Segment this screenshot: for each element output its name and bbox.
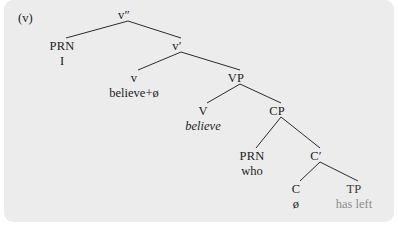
node-little-v-terminal: believe+ø: [109, 86, 158, 100]
node-v-bar-category: v′: [172, 39, 181, 53]
branch-vp-to-cp: [240, 84, 281, 103]
branch-cp-to-cbar: [281, 117, 320, 148]
node-big-v-terminal: believe: [185, 119, 220, 133]
node-cp-category: CP: [269, 104, 285, 118]
branch-cbar-to-tp: [320, 162, 358, 181]
branch-vbar-to-vp: [181, 52, 240, 70]
tree-diagram-canvas: (v) v″ PRN I v′ v believe+ø VP V believe…: [4, 0, 394, 222]
node-cp: CP: [269, 104, 285, 118]
branch-root-to-vbar: [128, 21, 181, 38]
node-c-bar-category: C′: [310, 149, 321, 163]
node-c-bar: C′: [310, 149, 321, 163]
node-prn-subject-category: PRN: [50, 39, 75, 53]
branch-vbar-to-little_v: [138, 52, 181, 70]
node-prn-who: PRN who: [240, 149, 265, 178]
node-prn-subject: PRN I: [50, 39, 75, 68]
node-c-head-category: C: [292, 182, 301, 196]
branch-root-to-prn_subject: [66, 21, 128, 38]
node-tp: TP has left: [336, 182, 372, 211]
node-root: v″: [118, 8, 130, 22]
node-c-head: C ø: [292, 182, 301, 211]
node-tp-terminal: has left: [336, 197, 372, 211]
node-vp-category: VP: [228, 71, 244, 85]
node-little-v-category: v: [109, 71, 158, 85]
node-v-bar: v′: [172, 39, 181, 53]
node-root-category: v″: [118, 8, 130, 22]
node-prn-subject-terminal: I: [50, 54, 75, 68]
node-big-v-category: V: [185, 104, 220, 118]
branch-cbar-to-c_head: [300, 162, 320, 181]
node-prn-who-category: PRN: [240, 149, 265, 163]
node-c-head-terminal: ø: [292, 197, 301, 211]
node-vp: VP: [228, 71, 244, 85]
node-prn-who-terminal: who: [240, 164, 265, 178]
node-little-v: v believe+ø: [109, 71, 158, 100]
node-tp-category: TP: [336, 182, 372, 196]
example-label: (v): [18, 11, 33, 26]
branch-cp-to-prn_who: [256, 117, 281, 148]
branch-vp-to-big_v: [207, 84, 240, 103]
figure-page: (v) v″ PRN I v′ v believe+ø VP V believe…: [0, 0, 398, 228]
node-big-v: V believe: [185, 104, 220, 133]
